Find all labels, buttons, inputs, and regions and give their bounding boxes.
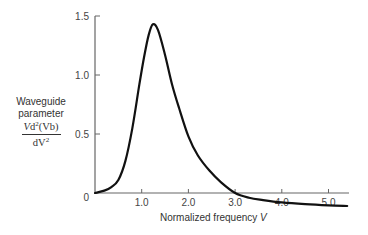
x-tick-label: 1.0 [135,197,149,208]
y-label-line1: Waveguide [4,96,78,108]
y-tick-label: 1.5 [75,11,89,22]
x-tick-label: 2.0 [181,197,195,208]
y-axis-label: Waveguide parameter Vd2(Vb) dV2 [4,96,78,149]
x-axis-label: Normalized frequency V [160,212,267,223]
data-curve [95,24,347,206]
y-label-line2: parameter [4,108,78,120]
y-tick-label: 0 [83,192,89,203]
y-label-numerator: Vd2(Vb) [22,121,61,135]
y-label-denominator: dV2 [4,137,78,149]
y-tick-label: 1.0 [75,70,89,81]
x-tick-label: 3.0 [228,197,242,208]
